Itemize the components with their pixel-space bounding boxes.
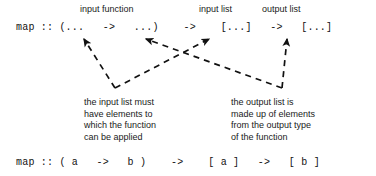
connector-output-note-to-function-result <box>146 39 282 88</box>
annotation-line: which the function <box>84 120 156 132</box>
annotation-line: have elements to <box>84 109 156 121</box>
annotation-line: from the output type <box>231 120 315 132</box>
label-output-list: output list <box>262 4 301 15</box>
signature-concrete: map :: ( a -> b ) -> [ a ] -> [ b ] <box>16 157 320 169</box>
diagram-canvas: input function input list output list ma… <box>0 0 376 176</box>
connector-output-note-to-output-list <box>282 39 287 88</box>
annotation-line: can be applied <box>84 132 156 144</box>
connector-input-note-to-input-function <box>84 39 115 88</box>
annotation-line: made up of elements <box>231 109 315 121</box>
annotation-output-list-note: the output list is made up of elements f… <box>231 97 315 143</box>
annotation-line: the input list must <box>84 97 156 109</box>
annotation-input-list-note: the input list must have elements to whi… <box>84 97 156 143</box>
annotation-line: of the function <box>231 132 315 144</box>
signature-schematic: map :: (... -> ...) -> [...] -> [...] <box>16 22 332 34</box>
connector-input-note-to-input-list <box>115 39 209 88</box>
annotation-line: the output list is <box>231 97 315 109</box>
label-input-list: input list <box>199 4 232 15</box>
label-input-function: input function <box>80 4 134 15</box>
